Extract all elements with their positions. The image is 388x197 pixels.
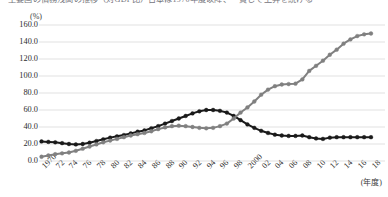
data-point-marker	[191, 125, 195, 129]
data-point-marker	[335, 48, 339, 52]
data-point-marker	[349, 135, 353, 139]
data-point-marker	[122, 135, 126, 139]
data-point-marker	[40, 155, 44, 159]
data-point-marker	[184, 124, 188, 128]
data-point-marker	[246, 106, 250, 110]
data-point-marker	[197, 109, 201, 113]
data-point-marker	[252, 126, 256, 130]
data-point-marker	[321, 137, 325, 141]
data-point-marker	[232, 117, 236, 121]
data-point-marker	[163, 122, 167, 126]
data-point-marker	[307, 135, 311, 139]
data-point-marker	[184, 114, 188, 118]
data-point-marker	[88, 145, 92, 149]
data-point-marker	[280, 134, 284, 138]
data-point-marker	[177, 117, 181, 121]
data-point-marker	[53, 152, 57, 156]
data-point-marker	[88, 141, 92, 145]
data-point-marker	[40, 140, 44, 144]
data-point-marker	[60, 141, 64, 145]
data-point-marker	[273, 133, 277, 137]
data-point-marker	[342, 135, 346, 139]
data-point-marker	[53, 140, 57, 144]
data-point-marker	[60, 151, 64, 155]
data-point-marker	[362, 32, 366, 36]
data-point-marker	[136, 132, 140, 136]
data-point-marker	[314, 137, 318, 141]
data-point-marker	[300, 78, 304, 82]
data-point-marker	[349, 38, 353, 42]
data-point-marker	[211, 126, 215, 130]
data-point-marker	[170, 124, 174, 128]
data-point-marker	[294, 82, 298, 86]
data-point-marker	[273, 84, 277, 88]
data-point-marker	[101, 140, 105, 144]
data-point-marker	[314, 64, 318, 68]
data-point-marker	[46, 140, 50, 144]
data-point-marker	[287, 82, 291, 86]
data-point-marker	[321, 59, 325, 63]
data-point-marker	[197, 126, 201, 130]
data-point-marker	[335, 135, 339, 139]
data-point-marker	[108, 139, 112, 143]
data-point-marker	[225, 111, 229, 115]
data-point-marker	[211, 108, 215, 112]
data-point-marker	[369, 135, 373, 139]
data-point-marker	[328, 136, 332, 140]
data-point-marker	[266, 88, 270, 92]
data-point-marker	[225, 122, 229, 126]
data-point-marker	[204, 126, 208, 130]
data-point-marker	[239, 111, 243, 115]
data-point-marker	[355, 34, 359, 38]
data-point-marker	[156, 127, 160, 131]
data-point-marker	[81, 142, 85, 146]
data-point-marker	[246, 123, 250, 127]
data-point-marker	[259, 93, 263, 97]
data-point-marker	[170, 119, 174, 123]
data-point-marker	[239, 118, 243, 122]
data-point-marker	[369, 32, 373, 36]
data-point-marker	[163, 126, 167, 130]
data-point-marker	[328, 53, 332, 57]
data-point-marker	[218, 124, 222, 128]
data-point-marker	[95, 143, 99, 147]
data-point-marker	[287, 134, 291, 138]
data-point-marker	[67, 142, 71, 146]
data-point-marker	[129, 134, 133, 138]
data-point-marker	[362, 135, 366, 139]
data-point-marker	[218, 109, 222, 113]
data-point-marker	[67, 151, 71, 155]
data-point-marker	[46, 154, 50, 158]
data-point-marker	[259, 129, 263, 133]
data-point-marker	[74, 143, 78, 147]
chart-canvas	[0, 0, 388, 197]
data-point-marker	[266, 131, 270, 135]
data-point-marker	[252, 100, 256, 104]
data-point-marker	[177, 124, 181, 128]
data-point-marker	[149, 129, 153, 133]
data-point-marker	[342, 42, 346, 46]
data-point-marker	[280, 83, 284, 87]
data-point-marker	[294, 134, 298, 138]
plot-area	[0, 0, 388, 197]
data-point-marker	[300, 134, 304, 138]
data-point-marker	[81, 147, 85, 151]
data-point-marker	[307, 69, 311, 73]
data-point-marker	[191, 112, 195, 116]
data-point-marker	[143, 131, 147, 135]
data-point-marker	[115, 137, 119, 141]
data-point-marker	[204, 108, 208, 112]
data-point-marker	[355, 135, 359, 139]
data-point-marker	[74, 149, 78, 153]
chart-figure: 主要国の債務残高の推移（対GDP比）日本は1970年度以降、一貫して上昇を続ける…	[0, 0, 388, 197]
